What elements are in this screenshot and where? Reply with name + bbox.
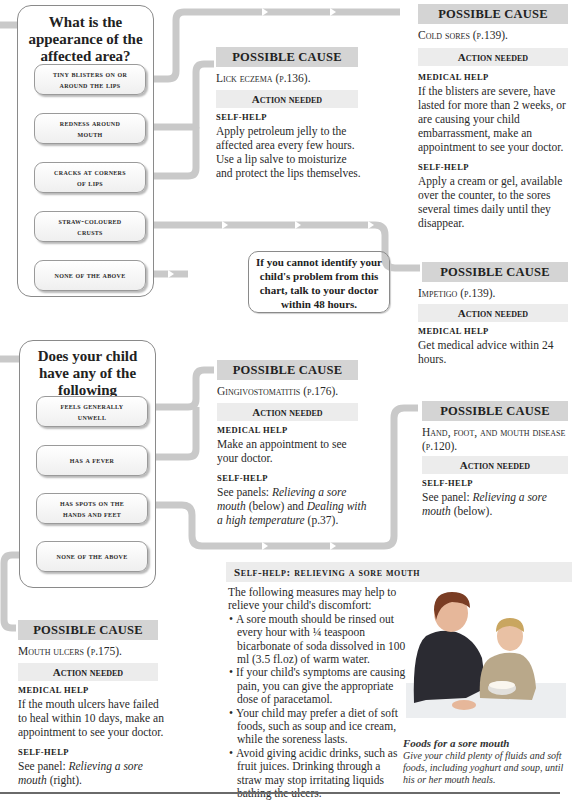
question-panel-symptoms: Does your child have any of the followin… (19, 340, 156, 588)
option-label: mouth (60, 129, 120, 140)
cause-gingivostomatitis: Gingivostomatitis (p.176). (217, 384, 338, 398)
question-title: What is the appearance of the affected a… (18, 14, 153, 65)
self-help-label: SELF-HELP (18, 745, 170, 759)
self-help-label: SELF-HELP (216, 110, 364, 124)
option-label: Cracks at corners (54, 167, 126, 178)
option-label: Feels generally (60, 401, 123, 412)
option-label: unwell (60, 412, 123, 423)
option-cracks-at-corners[interactable]: Cracks at cornersof lips (34, 162, 146, 193)
note-consult-doctor: If you cannot identify your child's prob… (248, 251, 390, 313)
medical-help-label: MEDICAL HELP (217, 423, 369, 437)
option-label: Has a fever (70, 455, 114, 466)
possible-cause-header: POSSIBLE CAUSE (217, 360, 358, 380)
option-redness-around-mouth[interactable]: Redness aroundmouth (34, 113, 146, 144)
action-needed-header: Action needed (418, 48, 568, 66)
question-title-line: appearance of the (18, 31, 153, 48)
option-label: Tiny blisters on or (53, 69, 127, 80)
cold-sores-actions: MEDICAL HELP If the blisters are severe,… (418, 66, 570, 230)
possible-cause-header: POSSIBLE CAUSE (18, 620, 158, 640)
text: (right). (47, 774, 82, 786)
option-label: of lips (54, 178, 126, 189)
medical-help-label: MEDICAL HELP (418, 324, 568, 338)
self-help-text: See panel: Relieving a sore mouth (below… (422, 490, 568, 518)
question-title-line: have any of the (20, 365, 155, 382)
gingivostomatitis-actions: MEDICAL HELP Make an appointment to see … (217, 419, 369, 527)
option-label: hands and feet (60, 509, 124, 520)
text: (below) and (246, 500, 307, 512)
question-panel-appearance: What is the appearance of the affected a… (17, 5, 154, 297)
possible-cause-header: POSSIBLE CAUSE (216, 47, 358, 67)
option-label: Has spots on the (60, 498, 124, 509)
cause-hand-foot-mouth: Hand, foot, and mouth disease (p.120). (422, 425, 568, 453)
mouth-ulcers-actions: MEDICAL HELP If the mouth ulcers have fa… (18, 679, 170, 787)
question-title-line: What is the (18, 14, 153, 31)
bottom-rule (0, 792, 560, 794)
list-item: Your child may prefer a diet of soft foo… (228, 707, 408, 747)
lick-eczema-actions: SELF-HELP Apply petroleum jelly to the a… (216, 106, 364, 180)
possible-cause-header: POSSIBLE CAUSE (422, 262, 568, 282)
medical-help-label: MEDICAL HELP (418, 70, 570, 84)
cause-impetigo: Impetigo (p.139). (418, 286, 495, 300)
self-help-list: A sore mouth should be rinsed out every … (228, 613, 408, 801)
option-label: None of the above (55, 270, 126, 281)
medical-help-label: MEDICAL HELP (18, 683, 170, 697)
text: See panel: (422, 491, 472, 503)
photo-illustration (406, 588, 566, 718)
text: See panels: (217, 486, 272, 498)
possible-cause-header: POSSIBLE CAUSE (422, 401, 568, 421)
self-help-label: SELF-HELP (217, 471, 369, 485)
option-straw-coloured-crusts[interactable]: Straw-colouredcrusts (34, 211, 146, 242)
self-help-text: Apply petroleum jelly to the affected ar… (216, 124, 364, 180)
option-has-a-fever[interactable]: Has a fever (36, 445, 148, 476)
self-help-text: See panel: Relieving a sore mouth (right… (18, 759, 170, 787)
self-help-panel-body: The following measures may help to relie… (228, 586, 408, 801)
caption-title: Foods for a sore mouth (403, 737, 509, 749)
self-help-panel-title: Self-help: relieving a sore mouth (226, 562, 572, 582)
self-help-intro: The following measures may help to relie… (228, 586, 408, 613)
cause-lick-eczema: Lick eczema (p.136). (216, 71, 311, 85)
question-title-line: affected area? (18, 48, 153, 65)
option-label: Redness around (60, 118, 120, 129)
option-none-of-the-above[interactable]: None of the above (36, 541, 148, 572)
photo-mother-and-child (406, 588, 566, 718)
cause-cold-sores: Cold sores (p.139). (418, 28, 508, 42)
hfmd-actions: SELF-HELP See panel: Relieving a sore mo… (422, 472, 568, 518)
medical-help-text: If the mouth ulcers have failed to heal … (18, 697, 170, 739)
text: (p.37). (305, 514, 339, 526)
list-item: A sore mouth should be rinsed out every … (228, 613, 408, 667)
option-none-of-the-above[interactable]: None of the above (34, 260, 146, 291)
self-help-text: See panels: Relieving a sore mouth (belo… (217, 485, 369, 527)
text: See panel: (18, 760, 68, 772)
cause-mouth-ulcers: Mouth ulcers (p.175). (18, 644, 122, 658)
photo-caption: Foods for a sore mouth Give your child p… (403, 737, 571, 786)
question-title-line: Does your child (20, 348, 155, 365)
impetigo-actions: MEDICAL HELP Get medical advice within 2… (418, 320, 568, 366)
medical-help-text: If the blisters are severe, have lasted … (418, 84, 570, 154)
medical-help-text: Get medical advice within 24 hours. (418, 338, 568, 366)
option-label: None of the above (57, 551, 128, 562)
option-label: crusts (59, 227, 122, 238)
option-tiny-blisters[interactable]: Tiny blisters on oraround the lips (34, 64, 146, 95)
self-help-label: SELF-HELP (422, 476, 568, 490)
possible-cause-header: POSSIBLE CAUSE (418, 4, 568, 24)
self-help-label: SELF-HELP (418, 160, 570, 174)
medical-help-text: Make an appointment to see your doctor. (217, 437, 369, 465)
text: (below). (451, 505, 493, 517)
self-help-text: Apply a cream or gel, available over the… (418, 174, 570, 230)
option-has-spots-hands-feet[interactable]: Has spots on thehands and feet (36, 493, 148, 524)
option-label: around the lips (53, 80, 127, 91)
option-label: Straw-coloured (59, 216, 122, 227)
list-item: If your child's symptoms are causing pai… (228, 666, 408, 706)
option-feels-generally-unwell[interactable]: Feels generallyunwell (36, 396, 148, 427)
caption-text: Give your child plenty of fluids and sof… (403, 750, 563, 785)
